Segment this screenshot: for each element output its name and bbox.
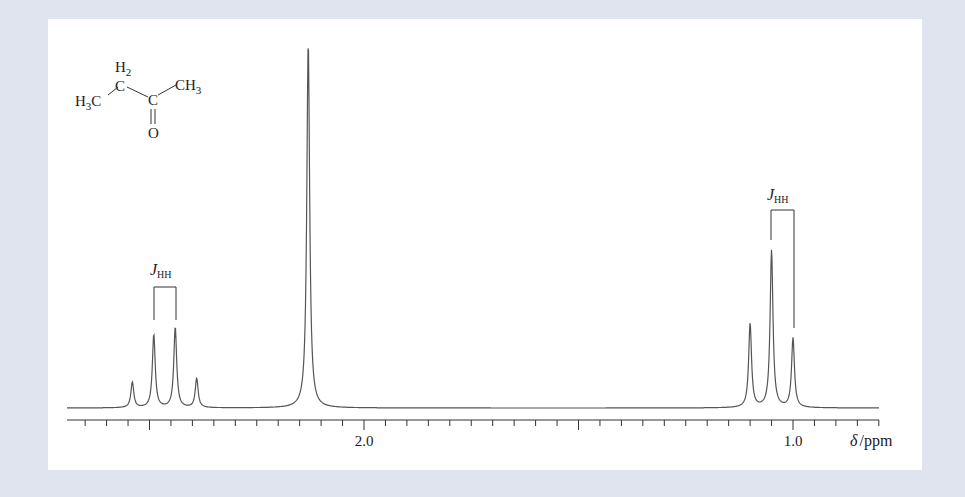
jhh-annotation-quartet: JHH [150, 261, 176, 320]
tick-label-1: 1.0 [784, 433, 803, 449]
h2-label: H2 [115, 59, 131, 78]
x-axis-label: δ/ppm [850, 432, 893, 450]
oxygen-label: O [148, 125, 159, 141]
c-methylene: C [115, 78, 125, 94]
h3c-label: H3C [75, 93, 101, 112]
jhh-label-right: JHH [767, 186, 789, 205]
spectrum-trace [67, 48, 879, 408]
ch3-label: CH3 [175, 77, 202, 96]
c-carbonyl: C [148, 92, 158, 108]
jhh-bracket-left [154, 287, 176, 320]
jhh-label-left: JHH [150, 261, 172, 280]
nmr-spectrum-chart: H2 C H3C C CH3 O 2.0 1.0 δ/ppm JHH JHH [0, 0, 965, 497]
jhh-bracket-right [771, 210, 794, 328]
tick-label-2: 2.0 [355, 433, 374, 449]
butanone-structure: H2 C H3C C CH3 O [75, 59, 202, 141]
x-axis [67, 420, 879, 430]
